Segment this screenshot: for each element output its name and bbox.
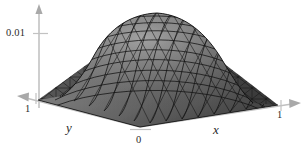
z-axis bbox=[33, 4, 48, 108]
y-axis-name-label: y bbox=[66, 121, 72, 134]
surface-mesh bbox=[30, 5, 290, 135]
x-axis-tick-label-1: 1 bbox=[277, 110, 282, 121]
surface-plot-canvas bbox=[0, 0, 308, 158]
y-axis-tick-label-1: 1 bbox=[25, 104, 30, 115]
x-axis-name-label: x bbox=[213, 123, 219, 136]
z-axis-tick-label: 0.01 bbox=[6, 28, 25, 39]
surface-plot-figure: 0.01 1 1 0 y x bbox=[0, 0, 308, 158]
origin-tick-label-0: 0 bbox=[136, 135, 141, 146]
